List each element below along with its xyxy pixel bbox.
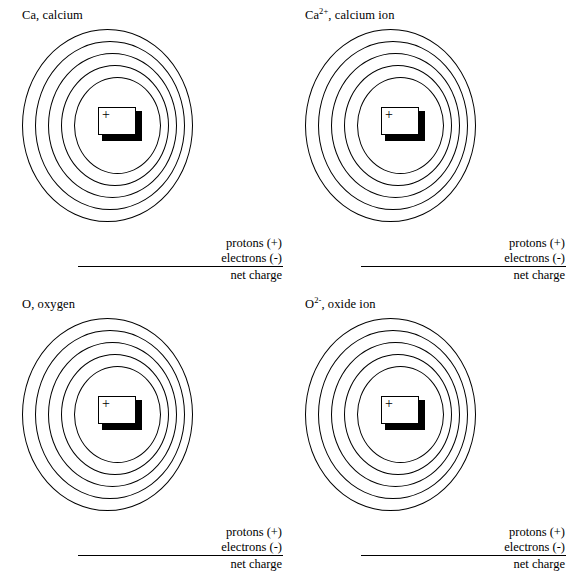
answer-blanks: protons (+) electrons (-) net charge [78, 236, 283, 282]
blank-electrons[interactable]: electrons (-) [78, 540, 283, 557]
species-symbol: O [305, 297, 314, 311]
blank-protons[interactable]: protons (+) [78, 236, 283, 251]
blank-electrons[interactable]: electrons (-) [78, 251, 283, 268]
bohr-diagram: + [303, 27, 478, 224]
species-symbol: Ca [22, 8, 36, 22]
nucleus-icon: + [381, 396, 421, 426]
species-name: , oxygen [31, 297, 75, 311]
species-label: Ca, calcium [22, 8, 83, 22]
species-symbol: Ca [305, 8, 319, 22]
nucleus-icon: + [98, 107, 138, 137]
species-label: Ca2+, calcium ion [305, 8, 395, 22]
atom-panel-calcium-ion: Ca2+, calcium ion + protons (+) electron… [283, 0, 566, 289]
plus-icon: + [385, 396, 393, 411]
answer-blanks: protons (+) electrons (-) net charge [78, 525, 283, 571]
plus-icon: + [102, 107, 110, 122]
blank-protons[interactable]: protons (+) [361, 525, 566, 540]
nucleus-icon: + [98, 396, 138, 426]
atom-panel-oxygen-atom: O, oxygen + protons (+) electrons (-) ne… [0, 289, 283, 578]
species-charge-superscript: 2+ [319, 6, 328, 16]
species-label: O, oxygen [22, 297, 75, 311]
blank-electrons[interactable]: electrons (-) [361, 540, 566, 557]
atom-panel-calcium-atom: Ca, calcium + protons (+) electrons (-) … [0, 0, 283, 289]
species-label: O2-, oxide ion [305, 297, 376, 311]
bohr-diagram: + [20, 27, 195, 224]
answer-blanks: protons (+) electrons (-) net charge [361, 236, 566, 282]
atom-panel-oxide-ion: O2-, oxide ion + protons (+) electrons (… [283, 289, 566, 578]
species-name: , calcium ion [328, 8, 394, 22]
species-symbol: O [22, 297, 31, 311]
blank-protons[interactable]: protons (+) [361, 236, 566, 251]
nucleus-icon: + [381, 107, 421, 137]
bohr-diagram: + [20, 316, 195, 513]
answer-blanks: protons (+) electrons (-) net charge [361, 525, 566, 571]
blank-protons[interactable]: protons (+) [78, 525, 283, 540]
species-name: , oxide ion [321, 297, 375, 311]
blank-net-charge[interactable]: net charge [78, 556, 283, 572]
plus-icon: + [102, 396, 110, 411]
blank-net-charge[interactable]: net charge [78, 267, 283, 283]
blank-net-charge[interactable]: net charge [361, 556, 566, 572]
blank-net-charge[interactable]: net charge [361, 267, 566, 283]
blank-electrons[interactable]: electrons (-) [361, 251, 566, 268]
worksheet-page: Ca, calcium + protons (+) electrons (-) … [0, 0, 567, 578]
plus-icon: + [385, 107, 393, 122]
bohr-diagram: + [303, 316, 478, 513]
species-name: , calcium [36, 8, 83, 22]
